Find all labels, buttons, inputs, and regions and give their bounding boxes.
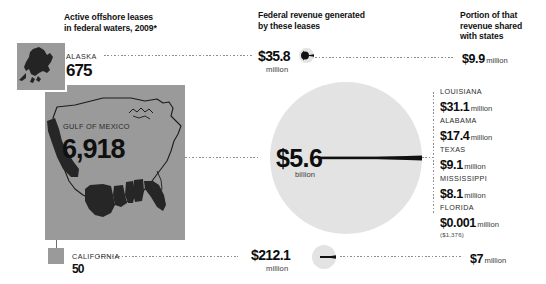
california-label: CALIFORNIA: [72, 252, 120, 261]
california-shared-unit: million: [485, 256, 507, 265]
alaska-label: ALASKA: [66, 52, 97, 61]
gulf-revenue-unit: billion: [295, 170, 315, 179]
list-item: ALABAMA $17.4million: [440, 117, 544, 144]
alaska-revenue-wedge: [299, 48, 314, 63]
state-name: LOUISIANA: [440, 88, 544, 97]
california-revenue-unit: million: [266, 264, 288, 273]
alabama-highlight: [133, 179, 144, 202]
state-name: FLORIDA: [440, 204, 544, 213]
state-unit: million: [471, 133, 493, 142]
leader-california-revenue-to-shared: [340, 256, 462, 257]
state-amount: $0.001: [440, 216, 476, 230]
california-revenue-bubble: [312, 245, 336, 269]
list-item: LOUISIANA $31.1million: [440, 88, 544, 115]
california-shared-row: $7million: [470, 249, 506, 267]
alaska-shared-row: $9.9million: [462, 49, 508, 67]
state-name: MISSISSIPPI: [440, 175, 544, 184]
florida-highlight: [144, 181, 166, 211]
list-item: FLORIDA $0.001million ($1,376): [440, 204, 544, 238]
california-revenue-amount: $212.1: [251, 248, 290, 262]
state-amount: $9.1: [440, 158, 463, 172]
alaska-shared-amount: $9.9: [462, 52, 485, 66]
gulf-of-mexico-value: 6,918: [62, 136, 125, 163]
list-item: TEXAS $9.1million: [440, 146, 544, 173]
texas-highlight: [85, 184, 115, 217]
alaska-inset-panel: [15, 41, 67, 92]
alaska-revenue-unit: million: [266, 65, 288, 74]
state-name: ALABAMA: [440, 117, 544, 126]
state-amount: $17.4: [440, 129, 469, 143]
middle-column-heading: Federal revenue generated by these lease…: [258, 10, 408, 31]
state-name: TEXAS: [440, 146, 544, 155]
alaska-value: 675: [66, 62, 91, 79]
leader-alaska-to-revenue: [104, 55, 254, 56]
california-shared-amount: $7: [470, 252, 483, 266]
california-revenue-wedge: [312, 245, 336, 269]
alaska-revenue-bubble: [299, 48, 314, 63]
state-amount: $31.1: [440, 100, 469, 114]
alaska-shared-unit: million: [486, 56, 508, 65]
state-unit: million: [477, 220, 499, 229]
left-column-heading: Active offshore leases in federal waters…: [64, 12, 214, 33]
louisiana-highlight: [113, 185, 127, 207]
california-value: 50: [72, 263, 83, 275]
leader-alaska-revenue-to-shared: [312, 57, 454, 58]
gulf-revenue-amount: $5.6: [276, 146, 322, 171]
list-item: MISSISSIPPI $8.1million: [440, 175, 544, 202]
alaska-revenue-amount: $35.8: [258, 49, 290, 63]
right-column-heading: Portion of that revenue shared with stat…: [460, 10, 546, 42]
state-amount: $8.1: [440, 187, 463, 201]
infographic-canvas: Active offshore leases in federal waters…: [0, 0, 546, 284]
california-marker-swatch: [48, 248, 64, 264]
gulf-of-mexico-label: GULF OF MEXICO: [63, 122, 130, 131]
alaska-shape-svg: [17, 43, 65, 90]
state-unit: million: [471, 104, 493, 113]
state-list-spine: [433, 92, 434, 214]
state-unit: million: [464, 191, 486, 200]
state-share-list: LOUISIANA $31.1million ALABAMA $17.4mill…: [440, 88, 544, 240]
state-unit: million: [464, 162, 486, 171]
state-amount-sub: ($1,376): [440, 231, 544, 238]
